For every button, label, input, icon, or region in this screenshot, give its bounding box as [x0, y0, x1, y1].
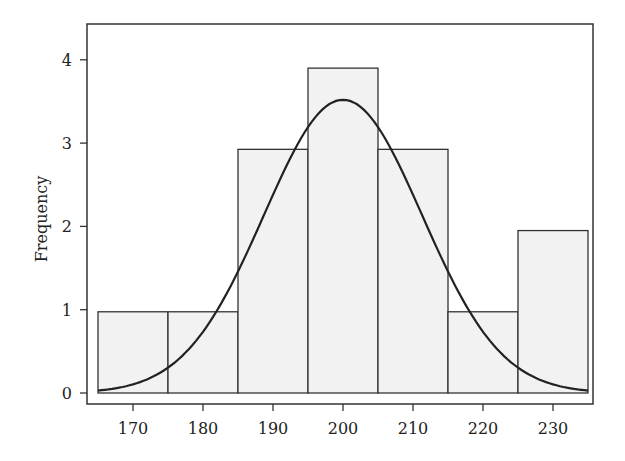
x-axis: 170180190200210220230	[118, 404, 569, 438]
histogram-bar	[238, 149, 308, 393]
y-axis-title: Frequency	[32, 176, 51, 263]
y-tick-label: 2	[62, 217, 72, 236]
x-tick-label: 200	[328, 419, 359, 438]
x-tick-label: 220	[468, 419, 499, 438]
x-tick-label: 170	[118, 419, 149, 438]
y-axis: 01234	[62, 51, 87, 403]
y-tick-label: 3	[62, 134, 72, 153]
histogram-bar	[308, 68, 378, 393]
x-tick-label: 180	[188, 419, 219, 438]
histogram-bar	[168, 312, 238, 393]
y-tick-label: 0	[62, 384, 72, 403]
y-tick-label: 1	[62, 301, 72, 320]
x-tick-label: 210	[398, 419, 429, 438]
histogram-bars	[98, 68, 588, 393]
histogram-bar	[98, 312, 168, 393]
histogram-bar	[378, 149, 448, 393]
histogram-bar	[448, 312, 518, 393]
x-tick-label: 190	[258, 419, 289, 438]
histogram-bar	[518, 231, 588, 393]
y-tick-label: 4	[62, 51, 72, 70]
x-tick-label: 230	[538, 419, 569, 438]
histogram-chart: 01234 170180190200210220230 Frequency	[0, 0, 625, 461]
